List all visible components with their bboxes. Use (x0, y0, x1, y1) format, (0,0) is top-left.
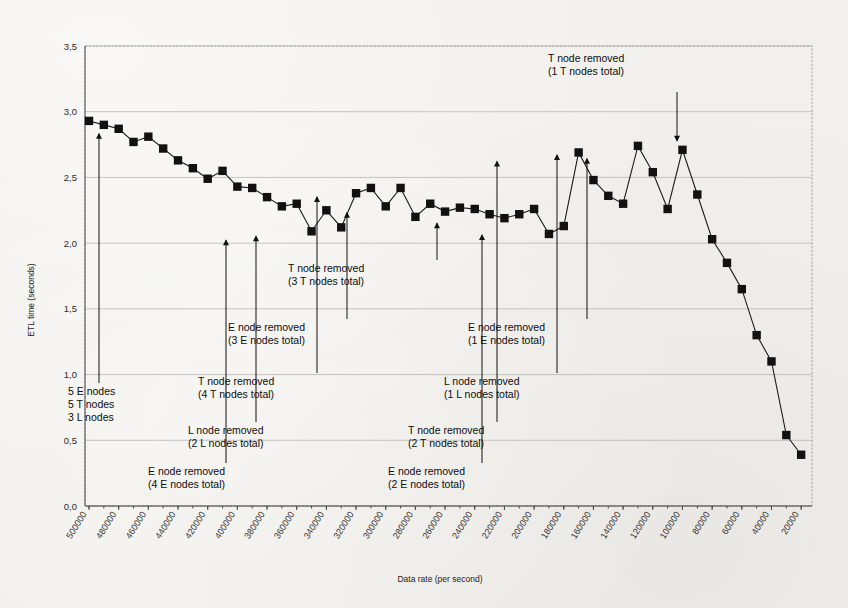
annotation-line: (3 T nodes total) (288, 275, 364, 287)
svg-text:80000: 80000 (690, 510, 712, 537)
data-point-marker[interactable] (144, 132, 152, 140)
x-axis-labels: 5000004800004600004400004200004000003800… (64, 510, 801, 541)
data-point-marker[interactable] (293, 200, 301, 208)
annotation-line: 5 T nodes (68, 398, 114, 410)
data-point-marker[interactable] (797, 451, 805, 459)
svg-text:460000: 460000 (124, 510, 148, 541)
data-point-marker[interactable] (723, 259, 731, 267)
data-point-marker[interactable] (85, 117, 93, 125)
data-point-marker[interactable] (530, 205, 538, 213)
annotations-group: 5 E nodes5 T nodes3 L nodesE node remove… (68, 52, 680, 490)
annotation-t-node-4: T node removed(4 T nodes total) (198, 196, 320, 400)
y-tick-label: 3,5 (64, 41, 77, 52)
data-point-marker[interactable] (589, 176, 597, 184)
data-point-marker[interactable] (248, 184, 256, 192)
data-point-marker[interactable] (604, 192, 612, 200)
data-point-marker[interactable] (634, 142, 642, 150)
x-tick-label: 160000 (569, 510, 593, 541)
y-tick-label: 1,0 (64, 369, 77, 380)
annotation-line: (1 L nodes total) (444, 388, 520, 400)
data-point-marker[interactable] (174, 156, 182, 164)
data-point-marker[interactable] (159, 144, 167, 152)
y-tick-label: 0,0 (64, 501, 77, 512)
data-series[interactable] (85, 117, 806, 459)
annotation-e-node-2: E node removed(2 E nodes total) (388, 234, 485, 490)
x-tick-label: 340000 (302, 510, 326, 541)
data-point-marker[interactable] (411, 213, 419, 221)
data-point-marker[interactable] (456, 203, 464, 211)
svg-text:440000: 440000 (153, 510, 177, 541)
data-point-marker[interactable] (560, 222, 568, 230)
x-tick-label: 60000 (720, 510, 742, 537)
data-point-marker[interactable] (352, 189, 360, 197)
data-point-marker[interactable] (782, 431, 790, 439)
svg-text:220000: 220000 (480, 510, 504, 541)
data-point-marker[interactable] (485, 210, 493, 218)
data-point-marker[interactable] (307, 227, 315, 235)
data-point-marker[interactable] (441, 207, 449, 215)
annotation-line: (1 E nodes total) (468, 334, 545, 346)
annotation-line: 3 L nodes (68, 411, 114, 423)
svg-text:100000: 100000 (658, 510, 682, 541)
data-point-marker[interactable] (738, 285, 746, 293)
arrow-head (314, 196, 320, 202)
x-tick-label: 400000 (213, 510, 237, 541)
x-tick-label: 300000 (361, 510, 385, 541)
y-tick-label: 0,5 (64, 435, 77, 446)
data-point-marker[interactable] (663, 205, 671, 213)
arrow-head (96, 133, 102, 139)
arrow-head (554, 154, 560, 160)
data-point-marker[interactable] (189, 164, 197, 172)
data-point-marker[interactable] (545, 230, 553, 238)
data-point-marker[interactable] (367, 184, 375, 192)
x-tick-label: 80000 (690, 510, 712, 537)
data-point-marker[interactable] (500, 214, 508, 222)
data-point-marker[interactable] (218, 167, 226, 175)
data-point-marker[interactable] (129, 138, 137, 146)
data-point-marker[interactable] (382, 202, 390, 210)
data-point-marker[interactable] (233, 182, 241, 190)
svg-text:500000: 500000 (64, 510, 88, 541)
arrow-head (434, 222, 440, 228)
data-point-marker[interactable] (708, 235, 716, 243)
data-point-marker[interactable] (114, 125, 122, 133)
data-point-marker[interactable] (471, 205, 479, 213)
annotation-line: (2 E nodes total) (388, 478, 465, 490)
annotation-t-node-2: T node removed(2 T nodes total) (408, 160, 500, 449)
data-point-marker[interactable] (322, 206, 330, 214)
data-point-marker[interactable] (693, 190, 701, 198)
data-point-marker[interactable] (100, 121, 108, 129)
data-point-marker[interactable] (396, 184, 404, 192)
data-point-marker[interactable] (426, 200, 434, 208)
svg-text:380000: 380000 (242, 510, 266, 541)
data-point-marker[interactable] (574, 148, 582, 156)
y-tick-label: 2,0 (64, 238, 77, 249)
data-point-marker[interactable] (752, 331, 760, 339)
x-tick-label: 460000 (124, 510, 148, 541)
svg-text:240000: 240000 (450, 510, 474, 541)
y-tick-label: 2,5 (64, 172, 77, 183)
chart-canvas: 0,00,51,01,52,02,53,03,5 500000480000460… (0, 0, 848, 608)
x-tick-label: 180000 (539, 510, 563, 541)
x-tick-label: 200000 (509, 510, 533, 541)
data-point-marker[interactable] (515, 210, 523, 218)
etl-time-vs-data-rate-chart: 0,00,51,01,52,02,53,03,5 500000480000460… (0, 0, 848, 608)
y-axis-title: ETL time (seconds) (26, 263, 36, 337)
y-tick-label: 3,0 (64, 106, 77, 117)
data-point-marker[interactable] (649, 168, 657, 176)
y-tick-label: 1,5 (64, 303, 77, 314)
data-point-marker[interactable] (619, 200, 627, 208)
annotation-line: (2 T nodes total) (408, 437, 484, 449)
data-point-marker[interactable] (678, 146, 686, 154)
data-point-marker[interactable] (263, 193, 271, 201)
svg-text:180000: 180000 (539, 510, 563, 541)
annotation-line: L node removed (188, 424, 264, 436)
data-point-marker[interactable] (203, 175, 211, 183)
annotation-line: 5 E nodes (68, 385, 115, 397)
svg-text:480000: 480000 (94, 510, 118, 541)
x-tick-label: 360000 (272, 510, 296, 541)
data-point-marker[interactable] (767, 357, 775, 365)
data-point-marker[interactable] (278, 202, 286, 210)
annotation-line: T node removed (288, 262, 364, 274)
data-point-marker[interactable] (337, 223, 345, 231)
